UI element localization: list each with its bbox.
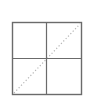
grid-diagram bbox=[0, 0, 91, 102]
